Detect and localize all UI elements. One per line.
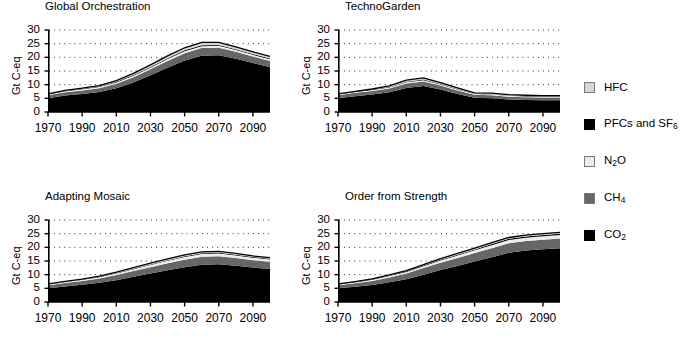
panel-technogarden: TechnoGarden Gt C-eq 3025201510501970199… [290,0,590,160]
x-tick-label: 2090 [240,122,267,134]
area-chart-svg [312,28,564,122]
x-tick-label: 1970 [325,312,352,324]
x-tick-label: 2010 [103,122,130,134]
legend-swatch-icon [584,82,595,93]
y-tick-label: 25 [317,228,330,240]
y-tick-label: 5 [324,93,330,105]
x-tick-label: 1970 [325,122,352,134]
x-tick-label: 2010 [393,122,420,134]
legend-swatch-icon [584,119,595,130]
x-tick-label: 1970 [35,312,62,324]
y-tick-label: 25 [27,228,40,240]
y-tick-label: 10 [27,79,40,91]
legend-label: N2O [604,154,626,169]
x-tick-label: 2070 [495,122,522,134]
panel-order-from-strength: Order from Strength Gt C-eq 302520151050… [290,190,590,349]
area-chart-svg [22,218,274,312]
y-tick-label: 20 [317,52,330,64]
x-tick-label: 2030 [137,122,164,134]
y-tick-label: 20 [317,242,330,254]
emissions-scenarios-figure: Global Orchestration Gt C-eq 30252015105… [0,0,681,349]
plot-area: 3025201510501970199020102030205020702090 [48,220,270,302]
y-tick-label: 15 [27,255,40,267]
x-tick-label: 1990 [359,122,386,134]
x-tick-label: 2050 [171,122,198,134]
y-tick-label: 10 [317,79,330,91]
x-tick-label: 2050 [461,312,488,324]
x-tick-label: 2090 [240,312,267,324]
x-tick-label: 2030 [427,312,454,324]
x-tick-label: 2010 [103,312,130,324]
panel-title: Global Orchestration [45,0,150,13]
plot-area: 3025201510501970199020102030205020702090 [338,220,560,302]
legend: HFCPFCs and SF6N2OCH4CO2 [584,80,681,245]
area-chart-svg [312,218,564,312]
y-tick-label: 25 [317,38,330,50]
y-tick-label: 15 [317,65,330,77]
legend-item[interactable]: CO2 [584,228,626,242]
y-tick-label: 10 [317,269,330,281]
y-tick-label: 25 [27,38,40,50]
panel-title: Adapting Mosaic [45,190,130,203]
y-tick-label: 5 [34,93,40,105]
y-tick-label: 0 [324,106,330,118]
x-tick-label: 2030 [427,122,454,134]
plot-area: 3025201510501970199020102030205020702090 [338,30,560,112]
panel-title: TechnoGarden [345,0,420,13]
legend-item[interactable]: PFCs and SF6 [584,117,678,131]
y-axis-label: Gt C-eq [300,56,312,95]
x-tick-label: 2070 [205,312,232,324]
plot-area: 3025201510501970199020102030205020702090 [48,30,270,112]
y-tick-label: 30 [317,214,330,226]
y-tick-label: 20 [27,52,40,64]
legend-label: HFC [604,81,628,93]
legend-label: PFCs and SF6 [604,117,678,132]
y-tick-label: 15 [27,65,40,77]
legend-item[interactable]: CH4 [584,191,625,205]
y-tick-label: 0 [34,106,40,118]
panel-adapting-mosaic: Adapting Mosaic Gt C-eq 3025201510501970… [0,190,300,349]
area-chart-svg [22,28,274,122]
x-tick-label: 2070 [495,312,522,324]
y-axis-label: Gt C-eq [10,246,22,285]
x-tick-label: 1990 [69,312,96,324]
y-tick-label: 20 [27,242,40,254]
panel-global-orchestration: Global Orchestration Gt C-eq 30252015105… [0,0,300,160]
legend-swatch-icon [584,156,595,167]
y-tick-label: 15 [317,255,330,267]
legend-item[interactable]: N2O [584,154,626,168]
y-tick-label: 5 [34,283,40,295]
y-tick-label: 30 [27,24,40,36]
y-axis-label: Gt C-eq [10,56,22,95]
y-tick-label: 0 [34,296,40,308]
y-tick-label: 30 [317,24,330,36]
x-tick-label: 2090 [530,122,557,134]
y-tick-label: 0 [324,296,330,308]
legend-label: CH4 [604,191,625,206]
y-axis-label: Gt C-eq [300,246,312,285]
y-tick-label: 30 [27,214,40,226]
y-tick-label: 10 [27,269,40,281]
x-tick-label: 1990 [359,312,386,324]
panel-title: Order from Strength [345,190,447,203]
x-tick-label: 2030 [137,312,164,324]
x-tick-label: 2050 [461,122,488,134]
x-tick-label: 2010 [393,312,420,324]
legend-label: CO2 [604,228,626,243]
legend-swatch-icon [584,230,595,241]
x-tick-label: 1970 [35,122,62,134]
y-tick-label: 5 [324,283,330,295]
legend-item[interactable]: HFC [584,80,628,94]
x-tick-label: 2070 [205,122,232,134]
legend-swatch-icon [584,193,595,204]
x-tick-label: 1990 [69,122,96,134]
x-tick-label: 2090 [530,312,557,324]
x-tick-label: 2050 [171,312,198,324]
